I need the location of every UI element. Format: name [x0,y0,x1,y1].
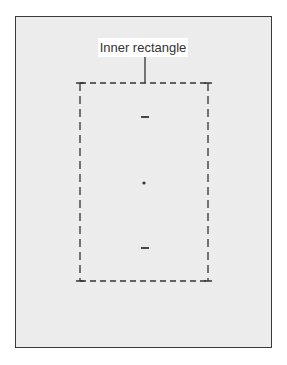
center-dot [142,181,145,184]
inner-rectangle-label: Inner rectangle [98,38,188,57]
